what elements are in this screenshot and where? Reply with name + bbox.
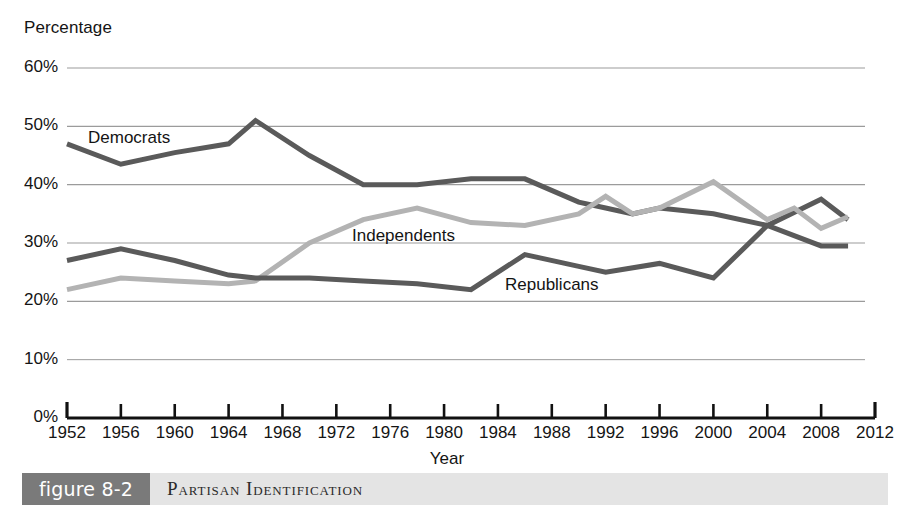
x-tick-label-2008: 2008 [794, 423, 848, 443]
x-tick-label-1952: 1952 [40, 423, 94, 443]
x-tick-label-2012: 2012 [848, 423, 902, 443]
axis-lines [67, 402, 875, 418]
x-axis-title-text: Year [430, 449, 464, 468]
x-tick-label-1968: 1968 [255, 423, 309, 443]
y-tick-label-50: 50% [2, 115, 58, 135]
x-tick-label-2004: 2004 [740, 423, 794, 443]
x-tick-label-2000: 2000 [686, 423, 740, 443]
x-tick-label-1960: 1960 [148, 423, 202, 443]
y-tick-label-60: 60% [2, 57, 58, 77]
x-tick-label-1964: 1964 [202, 423, 256, 443]
series-label-independents: Independents [352, 226, 455, 246]
figure-number-tag: figure 8-2 [22, 473, 150, 505]
y-tick-label-10: 10% [2, 349, 58, 369]
x-tick-label-1956: 1956 [94, 423, 148, 443]
series-lines [67, 121, 848, 290]
x-axis-title: Year [0, 449, 910, 469]
x-tick-label-1980: 1980 [417, 423, 471, 443]
x-tick-label-1976: 1976 [363, 423, 417, 443]
y-tick-label-40: 40% [2, 174, 58, 194]
y-tick-label-30: 30% [2, 232, 58, 252]
figure-caption-bar: figure 8-2 Partisan Identification [22, 473, 888, 505]
x-tick-label-1996: 1996 [633, 423, 687, 443]
gridlines [67, 68, 865, 360]
x-axis-tickmarks [121, 404, 821, 418]
figure-partisan-identification: Percentage 60%50%40%30%20%10%0% 19521956… [0, 0, 910, 516]
x-tick-label-1992: 1992 [579, 423, 633, 443]
x-tick-label-1984: 1984 [471, 423, 525, 443]
x-tick-label-1988: 1988 [525, 423, 579, 443]
figure-caption-title: Partisan Identification [150, 473, 888, 505]
series-label-democrats: Democrats [88, 128, 170, 148]
series-label-republicans: Republicans [505, 275, 599, 295]
x-tick-label-1972: 1972 [309, 423, 363, 443]
y-tick-label-20: 20% [2, 290, 58, 310]
